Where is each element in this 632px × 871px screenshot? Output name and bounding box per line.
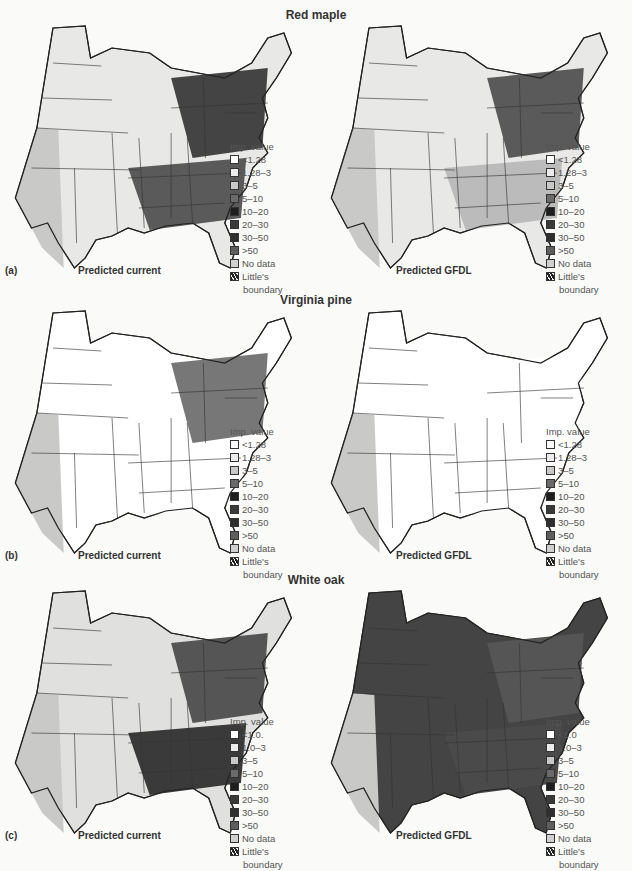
legend-item: 20–30 xyxy=(230,218,283,231)
legend-item: 10–20 xyxy=(546,490,599,503)
legend-swatch xyxy=(230,769,239,778)
legend-item: No data xyxy=(230,832,283,845)
legend-swatch xyxy=(230,531,239,540)
legend-item: 1.28–3 xyxy=(546,451,599,464)
legend-swatch xyxy=(546,233,555,242)
legend-item: 5–10 xyxy=(230,767,283,780)
legend-item: Little's xyxy=(546,270,599,283)
legend-swatch xyxy=(230,518,239,527)
legend: Imp. value<1.281.28–33–55–1010–2020–3030… xyxy=(230,140,283,296)
legend-swatch xyxy=(546,795,555,804)
legend-swatch xyxy=(230,730,239,739)
map-panel-current: (b)Predicted currentImp. value<1.281.28–… xyxy=(0,295,316,570)
legend-item: 10–20 xyxy=(230,205,283,218)
legend-label: No data xyxy=(558,832,591,845)
legend-label: 30–50 xyxy=(242,231,268,244)
legend-item: >50 xyxy=(546,529,599,542)
legend-swatch xyxy=(546,730,555,739)
panel-letter: (a) xyxy=(5,265,17,276)
legend-title: Imp. value xyxy=(230,715,283,728)
legend: Imp. value<1.281.28–33–55–1010–2020–3030… xyxy=(546,425,599,581)
legend-swatch xyxy=(546,531,555,540)
legend-item: 30–50 xyxy=(546,516,599,529)
legend-title: Imp. value xyxy=(546,715,599,728)
legend-item: 1.28–3 xyxy=(546,166,599,179)
legend-label: 5–10 xyxy=(558,477,579,490)
legend-item: <1.0 xyxy=(546,728,599,741)
panel-caption: Predicted GFDL xyxy=(396,550,472,561)
legend-swatch xyxy=(546,769,555,778)
legend-swatch xyxy=(546,272,555,281)
legend-label: No data xyxy=(242,257,275,270)
legend-title: Imp. value xyxy=(230,425,283,438)
legend-item: 3–5 xyxy=(230,754,283,767)
legend-label: >50 xyxy=(242,244,258,257)
legend-swatch xyxy=(546,207,555,216)
legend-item: 3–5 xyxy=(546,464,599,477)
legend-swatch xyxy=(546,466,555,475)
legend-label: 5–10 xyxy=(242,477,263,490)
legend-label: 5–10 xyxy=(558,767,579,780)
legend-swatch xyxy=(546,453,555,462)
legend-swatch xyxy=(230,492,239,501)
legend-item: 30–50 xyxy=(230,231,283,244)
legend-label: 10–20 xyxy=(558,205,584,218)
legend-label: 3–5 xyxy=(558,179,574,192)
map-panel-gfdl: Predicted GFDLImp. value<1.281.28–33–55–… xyxy=(316,295,632,570)
legend-swatch xyxy=(230,847,239,856)
legend-label: <1.0 xyxy=(558,728,577,741)
legend-item: >50 xyxy=(230,529,283,542)
legend-label: >50 xyxy=(242,529,258,542)
legend-swatch xyxy=(546,155,555,164)
legend-item: <1.28 xyxy=(230,153,283,166)
legend-item: 10–20 xyxy=(230,780,283,793)
legend-item: Little's xyxy=(546,845,599,858)
legend-item: 20–30 xyxy=(546,218,599,231)
legend-title: Imp. value xyxy=(546,425,599,438)
legend-item: 1.0–3 xyxy=(230,741,283,754)
legend-item: >50 xyxy=(546,819,599,832)
legend-swatch xyxy=(546,194,555,203)
legend-swatch xyxy=(546,808,555,817)
legend-item: <1.28 xyxy=(230,438,283,451)
legend-label: 20–30 xyxy=(242,503,268,516)
legend-label: 20–30 xyxy=(558,218,584,231)
legend-label: 10–20 xyxy=(558,490,584,503)
legend-item: 20–30 xyxy=(230,793,283,806)
legend-label: Little's xyxy=(242,845,269,858)
map-panel-current: (a)Predicted currentImp. value<1.281.28–… xyxy=(0,10,316,285)
legend-label: <1.28 xyxy=(242,438,266,451)
legend-swatch xyxy=(546,847,555,856)
legend-swatch xyxy=(546,181,555,190)
legend-label: <1.0. xyxy=(242,728,263,741)
legend-item: 10–20 xyxy=(546,780,599,793)
legend-label: <1.28 xyxy=(242,153,266,166)
legend-swatch xyxy=(230,821,239,830)
legend-item: 5–10 xyxy=(230,192,283,205)
legend-swatch xyxy=(230,220,239,229)
legend-item: 3–5 xyxy=(230,464,283,477)
legend-swatch xyxy=(230,259,239,268)
legend-swatch xyxy=(230,479,239,488)
legend-label: 5–10 xyxy=(558,192,579,205)
legend-label: 10–20 xyxy=(242,490,268,503)
map-panel-current: (c)Predicted currentImp. value<1.0.1.0–3… xyxy=(0,575,316,850)
legend-swatch xyxy=(230,272,239,281)
legend-swatch xyxy=(230,246,239,255)
legend-item: >50 xyxy=(230,244,283,257)
figure-row-a: Red maple (a)Predicted currentImp. value… xyxy=(0,0,632,285)
legend-swatch xyxy=(546,440,555,449)
legend-item: 1.28–3 xyxy=(230,166,283,179)
legend-swatch xyxy=(230,453,239,462)
legend-swatch xyxy=(230,207,239,216)
legend-label: >50 xyxy=(558,244,574,257)
legend-label: 10–20 xyxy=(558,780,584,793)
legend-item: 3–5 xyxy=(546,179,599,192)
legend-swatch xyxy=(230,168,239,177)
legend-label: No data xyxy=(558,542,591,555)
legend-item: No data xyxy=(546,257,599,270)
legend-label: No data xyxy=(242,542,275,555)
legend-swatch xyxy=(230,808,239,817)
legend-label: >50 xyxy=(558,529,574,542)
legend-swatch xyxy=(230,795,239,804)
